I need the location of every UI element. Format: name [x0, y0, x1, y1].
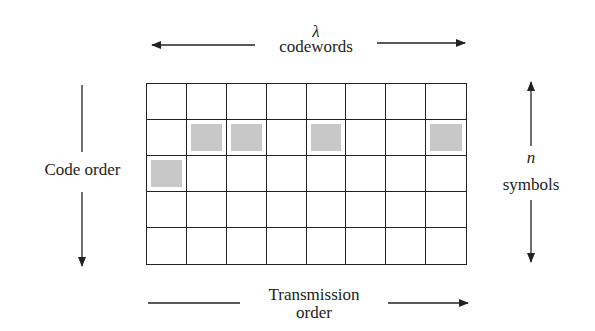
grid-cell: [267, 120, 307, 156]
shaded-symbol: [231, 124, 262, 151]
grid-cell: [187, 156, 227, 192]
grid-cell: [386, 84, 426, 120]
grid-cell: [187, 84, 227, 120]
grid-cell: [307, 156, 347, 192]
grid-cell: [227, 84, 267, 120]
grid-cell: [267, 192, 307, 228]
shaded-symbol: [311, 124, 342, 151]
grid-cell: [187, 120, 227, 156]
grid-cell: [426, 84, 466, 120]
codewords-label: codewords: [256, 38, 376, 56]
grid-cell: [307, 84, 347, 120]
shaded-symbol: [191, 124, 222, 151]
grid-cell: [227, 228, 267, 264]
grid-cell: [307, 120, 347, 156]
grid-cell: [227, 120, 267, 156]
shaded-symbol: [151, 160, 182, 187]
grid-cell: [227, 192, 267, 228]
grid-cell: [346, 120, 386, 156]
transmission-label: Transmission: [246, 286, 382, 304]
grid-cell: [147, 84, 187, 120]
grid-cell: [386, 192, 426, 228]
symbols-label: symbols: [496, 176, 566, 194]
grid-cell: [147, 156, 187, 192]
grid-cell: [307, 192, 347, 228]
grid-cell: [187, 228, 227, 264]
grid-cell: [426, 228, 466, 264]
grid-cell: [267, 156, 307, 192]
grid-cell: [426, 192, 466, 228]
grid-cell: [386, 156, 426, 192]
grid-cell: [386, 228, 426, 264]
grid-cell: [346, 192, 386, 228]
grid-cell: [267, 228, 307, 264]
grid-cell: [307, 228, 347, 264]
grid-cell: [187, 192, 227, 228]
grid-cell: [227, 156, 267, 192]
code-order-label: Code order: [30, 161, 135, 179]
grid-cell: [147, 120, 187, 156]
n-symbol: n: [511, 149, 551, 167]
grid-cell: [346, 84, 386, 120]
grid-cell: [267, 84, 307, 120]
grid-cell: [346, 156, 386, 192]
grid-cell: [426, 156, 466, 192]
grid-cell: [147, 192, 187, 228]
codeword-grid: [146, 83, 467, 265]
grid-cell: [147, 228, 187, 264]
order-label: order: [246, 304, 382, 322]
grid-cell: [346, 228, 386, 264]
grid-cell: [386, 120, 426, 156]
grid-cell: [426, 120, 466, 156]
shaded-symbol: [430, 124, 462, 151]
